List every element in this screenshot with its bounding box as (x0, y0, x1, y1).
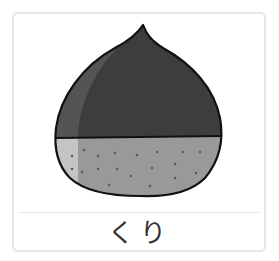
divider (19, 212, 259, 213)
card-label: くり (0, 218, 279, 248)
chestnut-icon (0, 0, 279, 210)
